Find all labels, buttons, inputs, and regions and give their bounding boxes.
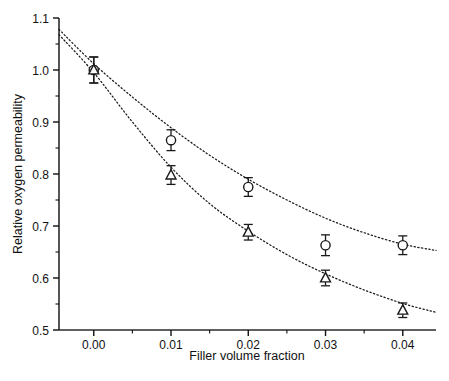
axis-frame — [59, 18, 436, 330]
x-axis-title: Filler volume fraction — [189, 349, 304, 363]
marker-open-circle — [244, 182, 253, 191]
y-axis-title: Relative oxygen permeability — [11, 93, 25, 254]
fit-curve-triangle-series — [59, 35, 436, 313]
y-tick-label: 0.5 — [32, 324, 49, 338]
fit-curves — [59, 29, 436, 312]
y-tick-label: 0.6 — [32, 272, 49, 286]
y-tick-label: 1.0 — [32, 64, 49, 78]
y-axis-ticks — [53, 18, 59, 330]
y-tick-label: 0.7 — [32, 220, 49, 234]
marker-open-triangle — [321, 273, 331, 282]
marker-open-circle — [166, 136, 175, 145]
x-axis-ticks — [94, 330, 403, 336]
y-tick-label: 0.9 — [32, 116, 49, 130]
y-tick-label: 1.1 — [32, 12, 49, 26]
y-axis-tick-labels: 0.50.60.70.80.91.01.1 — [32, 12, 49, 338]
x-tick-label: 0.03 — [314, 338, 338, 352]
y-tick-label: 0.8 — [32, 168, 49, 182]
marker-open-triangle — [398, 305, 408, 314]
data-markers — [89, 65, 408, 315]
marker-open-circle — [398, 241, 407, 250]
fit-curve-circle-series — [59, 29, 436, 250]
x-tick-label: 0.04 — [391, 338, 415, 352]
x-tick-label: 0.00 — [82, 338, 106, 352]
figure-container: 0.50.60.70.80.91.01.1 0.000.010.020.030.… — [0, 0, 449, 381]
marker-open-circle — [321, 241, 330, 250]
chart-canvas: 0.50.60.70.80.91.01.1 0.000.010.020.030.… — [0, 0, 449, 381]
x-tick-label: 0.01 — [159, 338, 183, 352]
marker-open-triangle — [243, 227, 253, 236]
